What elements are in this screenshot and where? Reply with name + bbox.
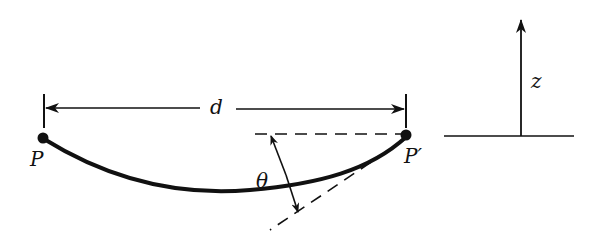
angle-arrow-down bbox=[286, 175, 298, 212]
z-axis-label: z bbox=[530, 69, 542, 93]
distance-label: d bbox=[210, 95, 223, 119]
z-axis: z bbox=[444, 20, 574, 136]
point-p-dot bbox=[38, 133, 49, 144]
angle-theta-indicator: θ bbox=[256, 136, 298, 212]
point-p-label: P bbox=[29, 147, 44, 171]
angle-arrow-up bbox=[271, 136, 286, 175]
sagging-cable bbox=[44, 137, 406, 191]
point-p-prime-dot bbox=[401, 130, 412, 141]
distance-dimension: d bbox=[44, 94, 406, 128]
catenary-diagram: d P P′ θ z bbox=[0, 0, 605, 247]
angle-label: θ bbox=[256, 169, 268, 193]
point-p-prime-label: P′ bbox=[403, 144, 422, 168]
